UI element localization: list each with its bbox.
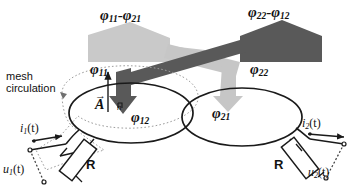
- resistor-left-body: [59, 139, 96, 180]
- mesh-direction-arrow: [60, 92, 67, 99]
- current-left-arrow: [32, 136, 62, 141]
- diagram-svg: [0, 0, 364, 188]
- figure-canvas: φ11-φ21 φ22-φ12 φ11 φ22 φ12 φ21 mesh cir…: [0, 0, 364, 188]
- left-circuit: [28, 136, 97, 184]
- right-terminal-bottom: [324, 176, 328, 180]
- left-terminal-top: [28, 148, 32, 152]
- resistor-right-body: [281, 137, 318, 178]
- current-right-arrow: [308, 134, 344, 137]
- left-terminal-bottom: [42, 180, 46, 184]
- right-terminal-top: [342, 142, 346, 146]
- right-loop-lead-upper: [296, 128, 310, 139]
- right-circuit: [281, 132, 346, 180]
